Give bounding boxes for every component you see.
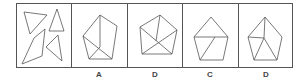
option-a-label: A: [71, 70, 127, 79]
pentagon-figure-b: [128, 4, 184, 69]
option-a-panel[interactable]: [71, 3, 128, 68]
option-b-panel[interactable]: [127, 3, 183, 68]
option-c-label: C: [182, 70, 238, 79]
pentagon-figure-d: [239, 4, 294, 69]
option-c-panel[interactable]: [182, 3, 239, 68]
pieces-figure: [17, 4, 73, 69]
question-panel: [16, 3, 72, 68]
pentagon-figure-a: [72, 4, 129, 69]
option-b-label: D: [127, 70, 183, 79]
option-d-label: D: [238, 70, 294, 79]
pentagon-figure-c: [183, 4, 240, 69]
option-d-panel[interactable]: [238, 3, 293, 68]
